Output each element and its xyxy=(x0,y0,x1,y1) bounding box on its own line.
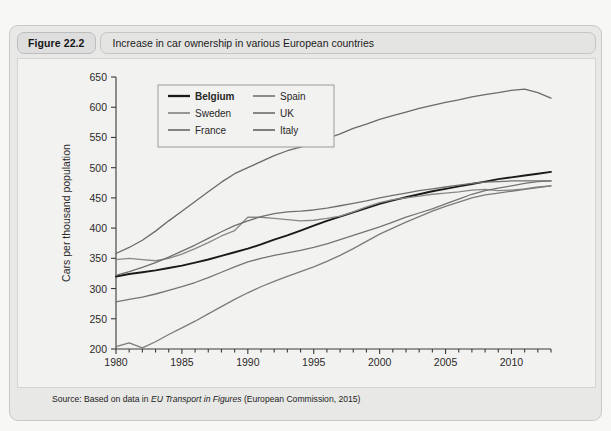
legend-label: Italy xyxy=(280,125,298,136)
screenshot-root: Figure 22.2 Increase in car ownership in… xyxy=(0,0,611,431)
legend-label: Spain xyxy=(280,91,306,102)
y-tick-label: 300 xyxy=(89,283,107,295)
source-suffix: (European Commission, 2015) xyxy=(242,394,361,404)
legend-label: Belgium xyxy=(195,91,235,102)
y-tick-label: 250 xyxy=(89,313,107,325)
source-prefix: Source: Based on data in xyxy=(52,394,151,404)
y-tick-label: 650 xyxy=(89,71,107,83)
x-tick-label: 1995 xyxy=(302,356,326,368)
source-title: EU Transport in Figures xyxy=(151,394,242,404)
x-tick-label: 2005 xyxy=(434,356,458,368)
legend-label: UK xyxy=(280,108,294,119)
legend-label: Sweden xyxy=(195,108,231,119)
figure-header: Figure 22.2 Increase in car ownership in… xyxy=(17,32,596,54)
x-tick-label: 1990 xyxy=(236,356,260,368)
figure-caption: Increase in car ownership in various Eur… xyxy=(100,32,596,54)
y-tick-label: 500 xyxy=(89,162,107,174)
x-tick-label: 1985 xyxy=(170,356,194,368)
legend-label: France xyxy=(195,125,227,136)
y-tick-label: 200 xyxy=(89,343,107,355)
y-tick-label: 450 xyxy=(89,192,107,204)
y-axis-title: Cars per thousand population xyxy=(60,144,72,282)
y-tick-label: 600 xyxy=(89,101,107,113)
x-tick-label: 1980 xyxy=(104,356,128,368)
y-tick-label: 350 xyxy=(89,252,107,264)
legend: BelgiumSwedenFranceSpainUKItaly xyxy=(158,85,334,147)
x-tick-label: 2000 xyxy=(368,356,392,368)
line-chart: 2002503003504004505005506006501980198519… xyxy=(18,59,596,388)
y-tick-label: 550 xyxy=(89,131,107,143)
figure-number-badge: Figure 22.2 xyxy=(17,32,96,54)
y-tick-label: 400 xyxy=(89,222,107,234)
legend-box xyxy=(158,85,334,147)
figure-panel: Figure 22.2 Increase in car ownership in… xyxy=(9,25,602,421)
x-tick-label: 2010 xyxy=(500,356,524,368)
chart-container: 2002503003504004505005506006501980198519… xyxy=(17,58,596,388)
source-note: Source: Based on data in EU Transport in… xyxy=(52,394,582,404)
